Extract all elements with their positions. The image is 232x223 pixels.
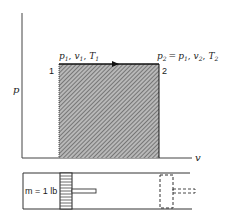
work-area-hatched bbox=[59, 64, 159, 158]
v-axis-label: v bbox=[195, 152, 201, 163]
final-piston-rod bbox=[173, 189, 195, 193]
mass-label: m = 1 lb bbox=[25, 186, 57, 196]
final-piston-dashed bbox=[160, 175, 195, 208]
state-1-number: 1 bbox=[49, 66, 54, 76]
svg-text:p1,v1,T1: p1,v1,T1 bbox=[59, 51, 99, 62]
state-2-properties: p2=p1,v2,T2 bbox=[157, 51, 218, 62]
svg-text:p2=p1,v2,T2: p2=p1,v2,T2 bbox=[157, 51, 218, 62]
initial-piston-rod bbox=[72, 189, 96, 193]
pv-diagram: p v 1 2 p1,v1,T1 p2=p1,v2,T2 m = 1 lb bbox=[0, 0, 232, 223]
initial-piston bbox=[60, 173, 96, 209]
piston-cylinder: m = 1 lb bbox=[23, 173, 195, 209]
state-2-number: 2 bbox=[162, 66, 167, 76]
state-1-properties: p1,v1,T1 bbox=[59, 51, 99, 62]
p-axis-label: p bbox=[13, 84, 20, 95]
